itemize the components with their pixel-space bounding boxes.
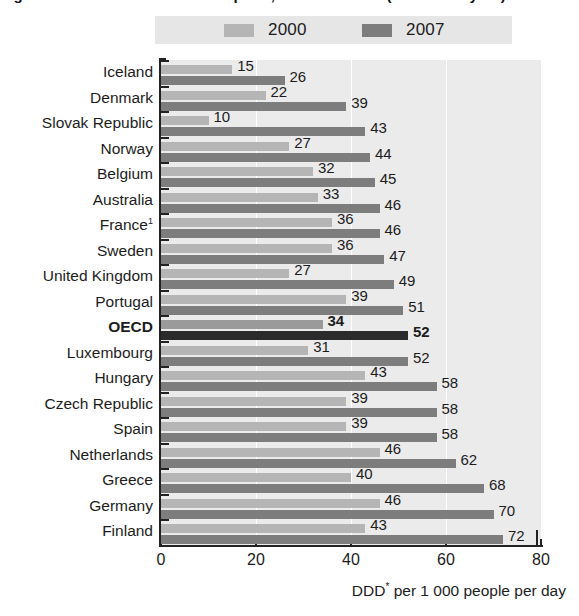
y-tick-iceland [161,60,169,62]
bar-value-norway-2007: 44 [375,149,392,158]
bar-portugal-2000[interactable] [161,295,346,304]
bar-value-slovak-republic-2007: 43 [370,123,387,132]
y-tick-united-kingdom [161,264,169,266]
legend-item-2007[interactable]: 2007 [362,16,445,44]
legend-label-2000: 2000 [268,20,307,40]
bar-sweden-2007[interactable] [161,255,384,264]
y-tick-sweden [161,239,169,241]
bar-value-spain-2007: 58 [442,429,459,438]
bar-belgium-2000[interactable] [161,167,313,176]
bar-value-france-2007: 46 [385,225,402,234]
bar-value-spain-2000: 39 [351,418,368,427]
bar-value-greece-2007: 68 [489,480,506,489]
cropped-chart-title: Figure 4.4.1. Antibiotics consumption, 2… [0,0,579,5]
bar-finland-2007[interactable] [161,535,503,544]
category-label-united-kingdom: United Kingdom [1,267,153,285]
legend-item-2000[interactable]: 2000 [224,16,307,44]
category-label-france: France1 [1,216,153,234]
bar-belgium-2007[interactable] [161,178,375,187]
bar-value-denmark-2007: 39 [351,98,368,107]
bar-germany-2007[interactable] [161,510,494,519]
bar-denmark-2007[interactable] [161,102,346,111]
bar-netherlands-2007[interactable] [161,459,456,468]
bar-value-czech-republic-2000: 39 [351,393,368,402]
category-labels: IcelandDenmarkSlovak RepublicNorwayBelgi… [0,60,153,545]
y-tick-oecd [161,315,169,317]
bar-portugal-2007[interactable] [161,306,403,315]
y-tick-slovak-republic [161,111,169,113]
bar-value-united-kingdom-2000: 27 [294,265,311,274]
y-tick-netherlands [161,443,169,445]
bar-oecd-2007[interactable] [161,331,408,340]
x-axis-caption: DDD* per 1 000 people per day [0,582,566,600]
y-tick-belgium [161,162,169,164]
y-tick-france [161,213,169,215]
y-tick-finland [161,519,169,521]
bar-spain-2000[interactable] [161,422,346,431]
legend-swatch-2000 [224,24,254,37]
bar-sweden-2000[interactable] [161,244,332,253]
bar-value-greece-2000: 40 [356,469,373,478]
bar-value-netherlands-2000: 46 [385,444,402,453]
bar-value-oecd-2007: 52 [413,327,430,336]
bar-value-australia-2000: 33 [323,189,340,198]
bar-value-iceland-2007: 26 [290,72,307,81]
bar-australia-2000[interactable] [161,193,318,202]
bar-norway-2007[interactable] [161,153,370,162]
bar-value-norway-2000: 27 [294,138,311,147]
category-label-oecd: OECD [1,318,153,336]
category-label-greece: Greece [1,471,153,489]
bar-netherlands-2000[interactable] [161,448,380,457]
bar-denmark-2000[interactable] [161,91,266,100]
x-axis-tick-label-40: 40 [342,551,360,569]
bar-value-finland-2000: 43 [370,520,387,529]
bar-value-belgium-2000: 32 [318,163,335,172]
bar-value-belgium-2007: 45 [380,174,397,183]
chart-title-text: Figure 4.4.1. Antibiotics consumption, 2… [0,0,579,3]
bar-iceland-2007[interactable] [161,76,285,85]
bar-norway-2000[interactable] [161,142,289,151]
bar-slovak-republic-2007[interactable] [161,127,365,136]
bar-czech-republic-2007[interactable] [161,408,437,417]
bar-value-sweden-2000: 36 [337,240,354,249]
y-tick-germany [161,494,169,496]
category-label-czech-republic: Czech Republic [1,395,153,413]
bar-germany-2000[interactable] [161,499,380,508]
x-axis-right-cap [536,530,538,547]
category-label-iceland: Iceland [1,63,153,81]
bar-united-kingdom-2000[interactable] [161,269,289,278]
bar-france-2000[interactable] [161,218,332,227]
x-axis-tick-label-0: 0 [157,551,166,569]
y-tick-czech-republic [161,392,169,394]
bar-value-portugal-2007: 51 [408,302,425,311]
legend-label-2007: 2007 [406,20,445,40]
bar-luxembourg-2000[interactable] [161,346,308,355]
bar-value-luxembourg-2000: 31 [313,342,330,351]
category-label-netherlands: Netherlands [1,446,153,464]
category-label-germany: Germany [1,497,153,515]
bar-hungary-2007[interactable] [161,382,437,391]
category-label-portugal: Portugal [1,293,153,311]
bar-oecd-2000[interactable] [161,320,323,329]
bar-value-denmark-2000: 22 [271,87,288,96]
bar-value-portugal-2000: 39 [351,291,368,300]
legend-swatch-2007 [362,24,392,37]
y-tick-hungary [161,366,169,368]
bar-greece-2000[interactable] [161,473,351,482]
y-tick-portugal [161,290,169,292]
bar-finland-2000[interactable] [161,524,365,533]
bar-greece-2007[interactable] [161,484,484,493]
bar-czech-republic-2000[interactable] [161,397,346,406]
bar-iceland-2000[interactable] [161,65,232,74]
bar-value-hungary-2007: 58 [442,378,459,387]
category-label-luxembourg: Luxembourg [1,344,153,362]
footnote-marker-france: 1 [148,216,153,226]
bar-value-oecd-2000: 34 [328,316,345,325]
bar-value-germany-2007: 70 [499,506,516,515]
bar-hungary-2000[interactable] [161,371,365,380]
category-label-finland: Finland [1,522,153,540]
bar-slovak-republic-2000[interactable] [161,116,209,125]
bar-chart-figure: Figure 4.4.1. Antibiotics consumption, 2… [0,0,579,616]
bar-value-iceland-2000: 15 [237,61,254,70]
category-label-spain: Spain [1,420,153,438]
